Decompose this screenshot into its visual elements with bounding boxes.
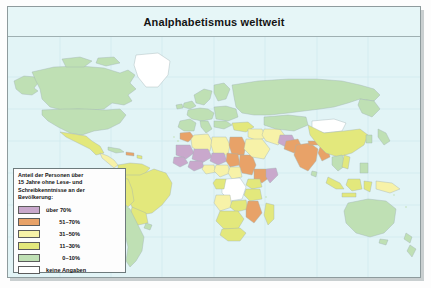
legend-label-51-70: 51–70% bbox=[44, 219, 80, 225]
legend-item-no-data: keine Angaben bbox=[18, 265, 121, 276]
legend-label-no-data: keine Angaben bbox=[46, 267, 86, 273]
legend-swatch-51-70 bbox=[18, 218, 40, 226]
legend-title: Anteil der Personen über 15 Jahre ohne L… bbox=[18, 172, 121, 202]
legend-swatch-no-data bbox=[18, 266, 40, 274]
legend-swatch-0-10 bbox=[18, 254, 40, 262]
page-title: Analphabetismus weltweit bbox=[143, 16, 284, 28]
country-korea bbox=[366, 135, 372, 143]
legend-swatch-11-30 bbox=[18, 242, 40, 250]
map-legend: Anteil der Personen über 15 Jahre ohne L… bbox=[13, 168, 126, 273]
title-band: Analphabetismus weltweit bbox=[8, 7, 420, 37]
country-libya bbox=[211, 137, 230, 155]
map-page: Analphabetismus weltweit .ln { fill:none… bbox=[0, 0, 431, 288]
country-philippines bbox=[360, 163, 368, 173]
legend-item-0-10: 0–10% bbox=[18, 253, 121, 264]
legend-title-line: Bevölkerung: bbox=[18, 194, 121, 201]
country-ireland bbox=[176, 104, 183, 109]
country-egypt bbox=[229, 137, 246, 155]
legend-label-11-30: 11–30% bbox=[44, 243, 80, 249]
map-frame: Analphabetismus weltweit .ln { fill:none… bbox=[7, 6, 421, 278]
legend-label-0-10: 0–10% bbox=[44, 255, 80, 261]
country-java bbox=[342, 193, 356, 197]
legend-title-line: Anteil der Personen über bbox=[18, 172, 121, 179]
title-divider bbox=[8, 36, 420, 37]
legend-swatch-31-50 bbox=[18, 230, 40, 238]
legend-item-11-30: 11–30% bbox=[18, 241, 121, 252]
legend-title-line: 15 Jahre ohne Lese- und bbox=[18, 179, 121, 186]
legend-item-over-70: über 70% bbox=[18, 205, 121, 216]
legend-label-31-50: 31–50% bbox=[44, 231, 80, 237]
legend-swatch-over-70 bbox=[18, 206, 40, 214]
legend-label-over-70: über 70% bbox=[46, 207, 71, 213]
legend-item-51-70: 51–70% bbox=[18, 217, 121, 228]
legend-item-31-50: 31–50% bbox=[18, 229, 121, 240]
legend-title-line: Schreibkenntnisse an der bbox=[18, 187, 121, 194]
